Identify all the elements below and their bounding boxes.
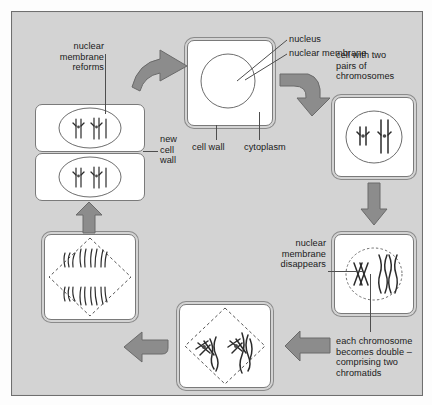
arrow-interphase-to-pairs: [278, 68, 336, 112]
stage-metaphase-spindle: [179, 304, 271, 388]
stage-anaphase-separation: [44, 234, 136, 320]
leader-nuclear-membrane-disappears: [328, 271, 364, 272]
arrow-daughter-to-interphase: [130, 49, 192, 93]
stage-chromosomes-doubled: [334, 234, 414, 314]
cell-two-pairs-contents: [335, 98, 413, 176]
label-each-chromosome-doubles: each chromosome becomes double – compris…: [336, 336, 432, 378]
chromosomes-doubled-contents: [335, 235, 413, 313]
mitosis-diagram-root: nuclear membrane reforms new cell wall n…: [0, 0, 432, 405]
label-cell-wall: cell wall: [192, 142, 242, 153]
leader-each-chromosome: [370, 274, 371, 332]
daughter-cell-upper-contents: [36, 105, 144, 151]
label-nuclear-membrane-disappears: nuclear membrane disappears: [244, 238, 326, 270]
label-nucleus: nucleus: [289, 34, 349, 45]
label-cell-with-two-pairs: cell with two pairs of chromosomes: [336, 50, 432, 82]
label-nuclear-membrane-reforms: nuclear membrane reforms: [24, 41, 104, 73]
diagram-panel: nuclear membrane reforms new cell wall n…: [11, 11, 423, 396]
stage-daughter-cell-lower: [35, 153, 145, 201]
leader-cell-wall: [216, 125, 217, 140]
arrow-spindle-to-separation: [118, 330, 170, 366]
leader-new-cell-wall: [143, 151, 158, 152]
stage-cell-two-pairs: [334, 97, 414, 177]
leader-nuclear-membrane-reforms: [105, 54, 106, 114]
daughter-cell-lower-contents: [36, 154, 144, 200]
metaphase-spindle-contents: [180, 305, 270, 387]
leader-cytoplasm: [259, 112, 260, 140]
stage-daughter-cell-upper: [35, 104, 145, 152]
label-cytoplasm: cytoplasm: [244, 142, 304, 153]
arrow-separation-to-daughter: [75, 202, 103, 234]
arrow-doubled-to-spindle: [284, 330, 330, 362]
arrow-pairs-to-doubled: [360, 183, 388, 227]
anaphase-separation-contents: [45, 235, 135, 319]
